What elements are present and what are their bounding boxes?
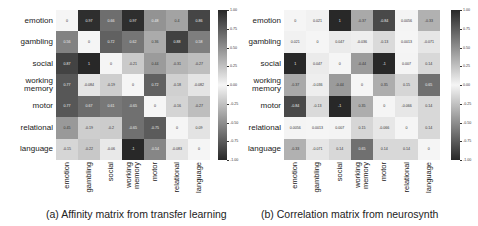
heatmap-cell: 0.61: [100, 96, 122, 117]
heatmap-cell: 0.87: [56, 53, 78, 74]
heatmap-cell: -0.13: [306, 96, 328, 117]
heatmap-cell: 0.4: [166, 10, 188, 31]
heatmap-cell: -0.084: [78, 74, 100, 95]
heatmap-cell: 0.14: [395, 139, 417, 160]
column-label: language: [195, 162, 203, 207]
heatmap-cell: -0.06: [100, 139, 122, 160]
colorbar-tick: -0.50: [463, 121, 471, 125]
heatmap-cell: 0.35: [373, 74, 395, 95]
heatmap-cell: -0.33: [418, 10, 440, 31]
caption-a: (a) Affinity matrix from transfer learni…: [46, 208, 227, 220]
heatmap-cell: 0: [188, 139, 210, 160]
heatmap-cell: -0.066: [373, 117, 395, 138]
row-label: social: [33, 60, 53, 68]
row-label: social: [261, 60, 281, 68]
heatmap-cell: 1: [329, 10, 351, 31]
heatmap-cell: 0: [329, 53, 351, 74]
heatmap-cell: -0.071: [418, 31, 440, 52]
row-label: working memory: [252, 77, 281, 93]
column-label: social: [336, 162, 344, 207]
heatmap-cell: -0.44: [329, 74, 351, 95]
heatmap-cell: -0.2: [100, 117, 122, 138]
heatmap-cell: 0: [56, 10, 78, 31]
heatmap-cell: -0.066: [395, 96, 417, 117]
colorbar-tick: 1.00: [230, 8, 237, 12]
heatmap-cell: -1: [122, 139, 144, 160]
heatmap-cell: 0: [351, 74, 373, 95]
heatmap-cell: -0.16: [166, 96, 188, 117]
colorbar-tick: 0.50: [463, 46, 470, 50]
heatmap-cell: 0.65: [418, 74, 440, 95]
colorbar-affinity: 1.000.750.500.250.00-0.25-0.50-0.75-1.00: [218, 10, 227, 160]
heatmap-cell: 0.48: [144, 10, 166, 31]
heatmap-cell: 0: [306, 31, 328, 52]
colorbar-tick: 0.25: [463, 64, 470, 68]
column-label: motor: [151, 162, 159, 207]
heatmap-cell: 0.007: [329, 117, 351, 138]
heatmap-cell: -0.75: [144, 117, 166, 138]
colorbar-tick: 0.00: [463, 83, 470, 87]
row-label: emotion: [253, 17, 281, 25]
heatmap-cell: 0: [78, 31, 100, 52]
heatmap-cell: 0.0056: [284, 117, 306, 138]
heatmap-cell: 0: [100, 53, 122, 74]
column-label: relational: [173, 162, 181, 207]
column-label: working memory: [125, 162, 141, 207]
colorbar-tick: 0.75: [463, 27, 470, 31]
heatmap-cell: 0.72: [144, 74, 166, 95]
heatmap-cell: 0.14: [418, 96, 440, 117]
heatmap-cell: 0.36: [144, 31, 166, 52]
panel-correlation-matrix: emotiongamblingsocialworking memorymotor…: [239, 0, 478, 226]
colorbar-tick: -0.25: [230, 102, 238, 106]
row-label: emotion: [25, 17, 53, 25]
column-label: emotion: [63, 162, 71, 207]
heatmap-cell: 0.67: [78, 96, 100, 117]
colorbar-tick: -0.75: [463, 139, 471, 143]
column-label: language: [425, 162, 433, 207]
heatmap-cell: 0.58: [188, 31, 210, 52]
heatmap-cell: 0.007: [395, 53, 417, 74]
heatmap-cell: 0.0013: [306, 117, 328, 138]
column-label: gambling: [85, 162, 93, 207]
colorbar-tick: 0.75: [230, 27, 237, 31]
heatmap-cell: -0.19: [100, 74, 122, 95]
row-label: language: [248, 145, 281, 153]
heatmap-cell: 0: [395, 117, 417, 138]
heatmap-cell: -0.13: [373, 31, 395, 52]
heatmap-cell: -0.18: [166, 74, 188, 95]
column-label: emotion: [291, 162, 299, 207]
heatmap-cell: 0.0056: [395, 10, 417, 31]
colorbar-tick: 0.50: [230, 46, 237, 50]
heatmap-cell: 0.45: [56, 117, 78, 138]
colorbar-tick: 0.00: [230, 83, 237, 87]
column-label: social: [107, 162, 115, 207]
heatmap-cell: -0.44: [351, 53, 373, 74]
heatmap-cell: 0.72: [100, 31, 122, 52]
heatmap-cell: 0.047: [306, 53, 328, 74]
heatmap-cell: -1: [373, 53, 395, 74]
colorbar-tick: 0.25: [230, 64, 237, 68]
heatmap-cell: 0.021: [306, 10, 328, 31]
colorbar-tick: -0.25: [463, 102, 471, 106]
heatmap-cell: 0: [418, 139, 440, 160]
heatmap-cell: 0.021: [284, 31, 306, 52]
heatmap-cell: -0.84: [284, 96, 306, 117]
heatmap-cell: -0.082: [188, 74, 210, 95]
row-label: relational: [21, 124, 53, 132]
colorbar-tick: -0.50: [230, 121, 238, 125]
heatmap-cell: -0.083: [166, 139, 188, 160]
colorbar-tick: -1.00: [230, 158, 238, 162]
row-label: relational: [249, 124, 281, 132]
column-label: working memory: [354, 162, 370, 207]
heatmap-cell: 0.047: [329, 31, 351, 52]
heatmap-cell: 0.97: [78, 10, 100, 31]
heatmap-cell: -0.071: [306, 139, 328, 160]
colorbar-correlation: 1.000.750.500.250.00-0.25-0.50-0.75-1.00: [451, 10, 460, 160]
heatmap-cell: 0.62: [122, 31, 144, 52]
caption-b: (b) Correlation matrix from neurosynth: [261, 208, 438, 220]
heatmap-cell: 0.09: [188, 117, 210, 138]
heatmap-cell: 0.14: [418, 117, 440, 138]
heatmap-cell: -0.22: [78, 139, 100, 160]
row-labels: emotiongamblingsocialworking memorymotor…: [0, 10, 53, 160]
heatmap-cell: -0.54: [144, 139, 166, 160]
